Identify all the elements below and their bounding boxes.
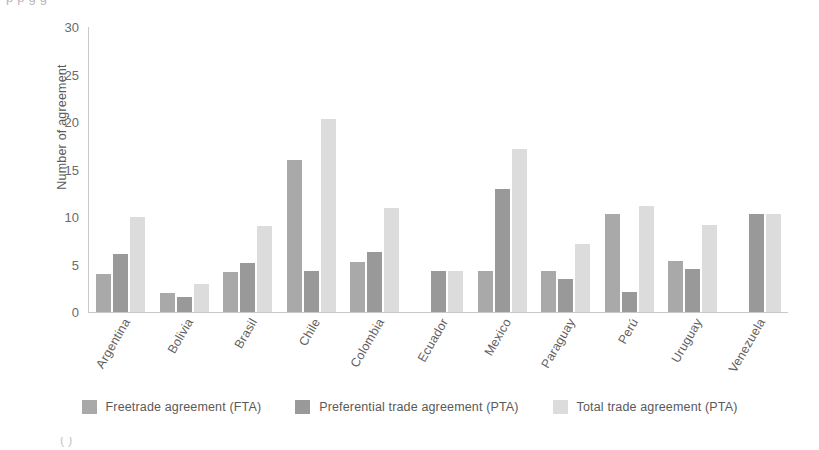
bar-group	[407, 27, 471, 312]
y-tick-label: 25	[65, 67, 79, 82]
bar-group	[280, 27, 344, 312]
bar[interactable]	[431, 271, 446, 312]
bar[interactable]	[639, 206, 654, 312]
x-tick-label-cell: Venezuela	[724, 314, 788, 392]
y-tick-label: 10	[65, 210, 79, 225]
x-tick-label: Argentina	[93, 316, 133, 371]
bar[interactable]	[622, 292, 637, 312]
bar[interactable]	[113, 254, 128, 312]
x-tick-label: Brasil	[232, 316, 260, 351]
bar[interactable]	[384, 208, 399, 313]
x-tick-label: Ecuador	[415, 316, 451, 365]
legend-swatch-icon	[82, 400, 97, 414]
chart-legend: Freetrade agreement (FTA)Preferential tr…	[0, 400, 819, 414]
top-cropped-caption: p p g g	[0, 0, 819, 14]
bar[interactable]	[702, 225, 717, 312]
x-tick-label-cell: Brasil	[216, 314, 280, 392]
bar[interactable]	[160, 293, 175, 312]
legend-label: Preferential trade agreement (PTA)	[319, 400, 518, 414]
x-tick-label: Venezuela	[726, 316, 768, 375]
bar[interactable]	[367, 252, 382, 312]
y-tick-label: 15	[65, 162, 79, 177]
x-tick-label: Mexico	[482, 316, 515, 358]
x-tick-label-cell: Paraguay	[534, 314, 598, 392]
x-axis-line	[88, 312, 788, 313]
bar[interactable]	[257, 226, 272, 312]
x-tick-label-cell: Perú	[597, 314, 661, 392]
bar[interactable]	[766, 214, 781, 312]
bar-group	[724, 27, 788, 312]
x-tick-label: Colombia	[348, 316, 387, 370]
x-axis-labels: ArgentinaBoliviaBrasilChileColombiaEcuad…	[89, 314, 788, 392]
y-tick-label: 0	[72, 305, 79, 320]
bar[interactable]	[321, 119, 336, 312]
legend-item[interactable]: Preferential trade agreement (PTA)	[295, 400, 518, 414]
x-tick-label-cell: Uruguay	[661, 314, 725, 392]
bar[interactable]	[541, 271, 556, 312]
bar-group	[534, 27, 598, 312]
bar[interactable]	[558, 279, 573, 312]
bar[interactable]	[668, 261, 683, 312]
legend-swatch-icon	[295, 400, 310, 414]
x-tick-label: Paraguay	[538, 316, 578, 371]
bar[interactable]	[304, 271, 319, 312]
x-tick-label-cell: Bolivia	[153, 314, 217, 392]
bar-chart-figure: p p g g Number of agreement 051015202530…	[0, 0, 819, 450]
bar[interactable]	[96, 274, 111, 312]
legend-label: Total trade agreement (PTA)	[577, 400, 738, 414]
x-tick-label-cell: Colombia	[343, 314, 407, 392]
bar[interactable]	[478, 271, 493, 312]
x-tick-label-cell: Mexico	[470, 314, 534, 392]
bar[interactable]	[448, 271, 463, 312]
x-tick-label: Chile	[297, 316, 324, 349]
bar[interactable]	[575, 244, 590, 312]
bottom-cropped-caption: ( )	[0, 437, 819, 450]
bar-group	[597, 27, 661, 312]
bar[interactable]	[223, 272, 238, 312]
legend-item[interactable]: Total trade agreement (PTA)	[553, 400, 738, 414]
bar[interactable]	[605, 214, 620, 312]
bar[interactable]	[287, 160, 302, 312]
bar[interactable]	[130, 217, 145, 312]
legend-swatch-icon	[553, 400, 568, 414]
bar[interactable]	[177, 297, 192, 312]
x-tick-label-cell: Chile	[280, 314, 344, 392]
legend-item[interactable]: Freetrade agreement (FTA)	[82, 400, 262, 414]
x-tick-label-cell: Argentina	[89, 314, 153, 392]
bar[interactable]	[749, 214, 764, 312]
bar[interactable]	[512, 149, 527, 312]
bar-group	[343, 27, 407, 312]
bar-group	[153, 27, 217, 312]
x-tick-label-cell: Ecuador	[407, 314, 471, 392]
bar[interactable]	[495, 189, 510, 313]
y-tick-label: 5	[72, 257, 79, 272]
legend-label: Freetrade agreement (FTA)	[106, 400, 262, 414]
bar-groups	[89, 27, 788, 312]
bar[interactable]	[350, 262, 365, 312]
bar[interactable]	[194, 284, 209, 313]
bar-group	[89, 27, 153, 312]
x-tick-label: Bolivia	[165, 316, 196, 356]
bar-group	[661, 27, 725, 312]
bar-group	[216, 27, 280, 312]
bar-group	[470, 27, 534, 312]
bar[interactable]	[685, 269, 700, 312]
y-tick-label: 30	[65, 20, 79, 35]
x-tick-label: Perú	[616, 316, 642, 347]
bar[interactable]	[240, 263, 255, 312]
plot-area: 051015202530	[88, 27, 788, 312]
y-tick-label: 20	[65, 115, 79, 130]
x-tick-label: Uruguay	[668, 316, 704, 365]
